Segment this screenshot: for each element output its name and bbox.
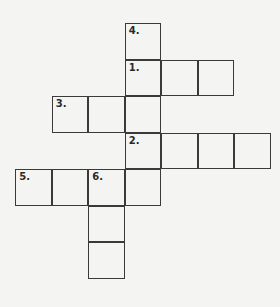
crossword-cell[interactable] xyxy=(125,96,162,133)
clue-number: 4. xyxy=(129,26,140,36)
crossword-cell[interactable] xyxy=(88,96,125,133)
crossword-cell[interactable]: 1. xyxy=(125,60,162,97)
crossword-grid: 4.1.3.2.5.6. xyxy=(0,0,280,307)
crossword-cell[interactable] xyxy=(88,242,125,279)
clue-number: 6. xyxy=(92,172,103,182)
clue-number: 1. xyxy=(129,63,140,73)
crossword-cell[interactable] xyxy=(161,133,198,170)
crossword-cell[interactable]: 3. xyxy=(52,96,89,133)
crossword-cell[interactable] xyxy=(198,60,235,97)
crossword-cell[interactable] xyxy=(234,133,271,170)
crossword-cell[interactable] xyxy=(125,169,162,206)
crossword-cell[interactable]: 4. xyxy=(125,23,162,60)
clue-number: 2. xyxy=(129,136,140,146)
clue-number: 3. xyxy=(56,99,67,109)
crossword-cell[interactable]: 6. xyxy=(88,169,125,206)
crossword-cell[interactable] xyxy=(198,133,235,170)
crossword-cell[interactable] xyxy=(52,169,89,206)
crossword-cell[interactable] xyxy=(88,206,125,243)
crossword-cell[interactable]: 5. xyxy=(15,169,52,206)
crossword-cell[interactable]: 2. xyxy=(125,133,162,170)
clue-number: 5. xyxy=(19,172,30,182)
crossword-cell[interactable] xyxy=(161,60,198,97)
